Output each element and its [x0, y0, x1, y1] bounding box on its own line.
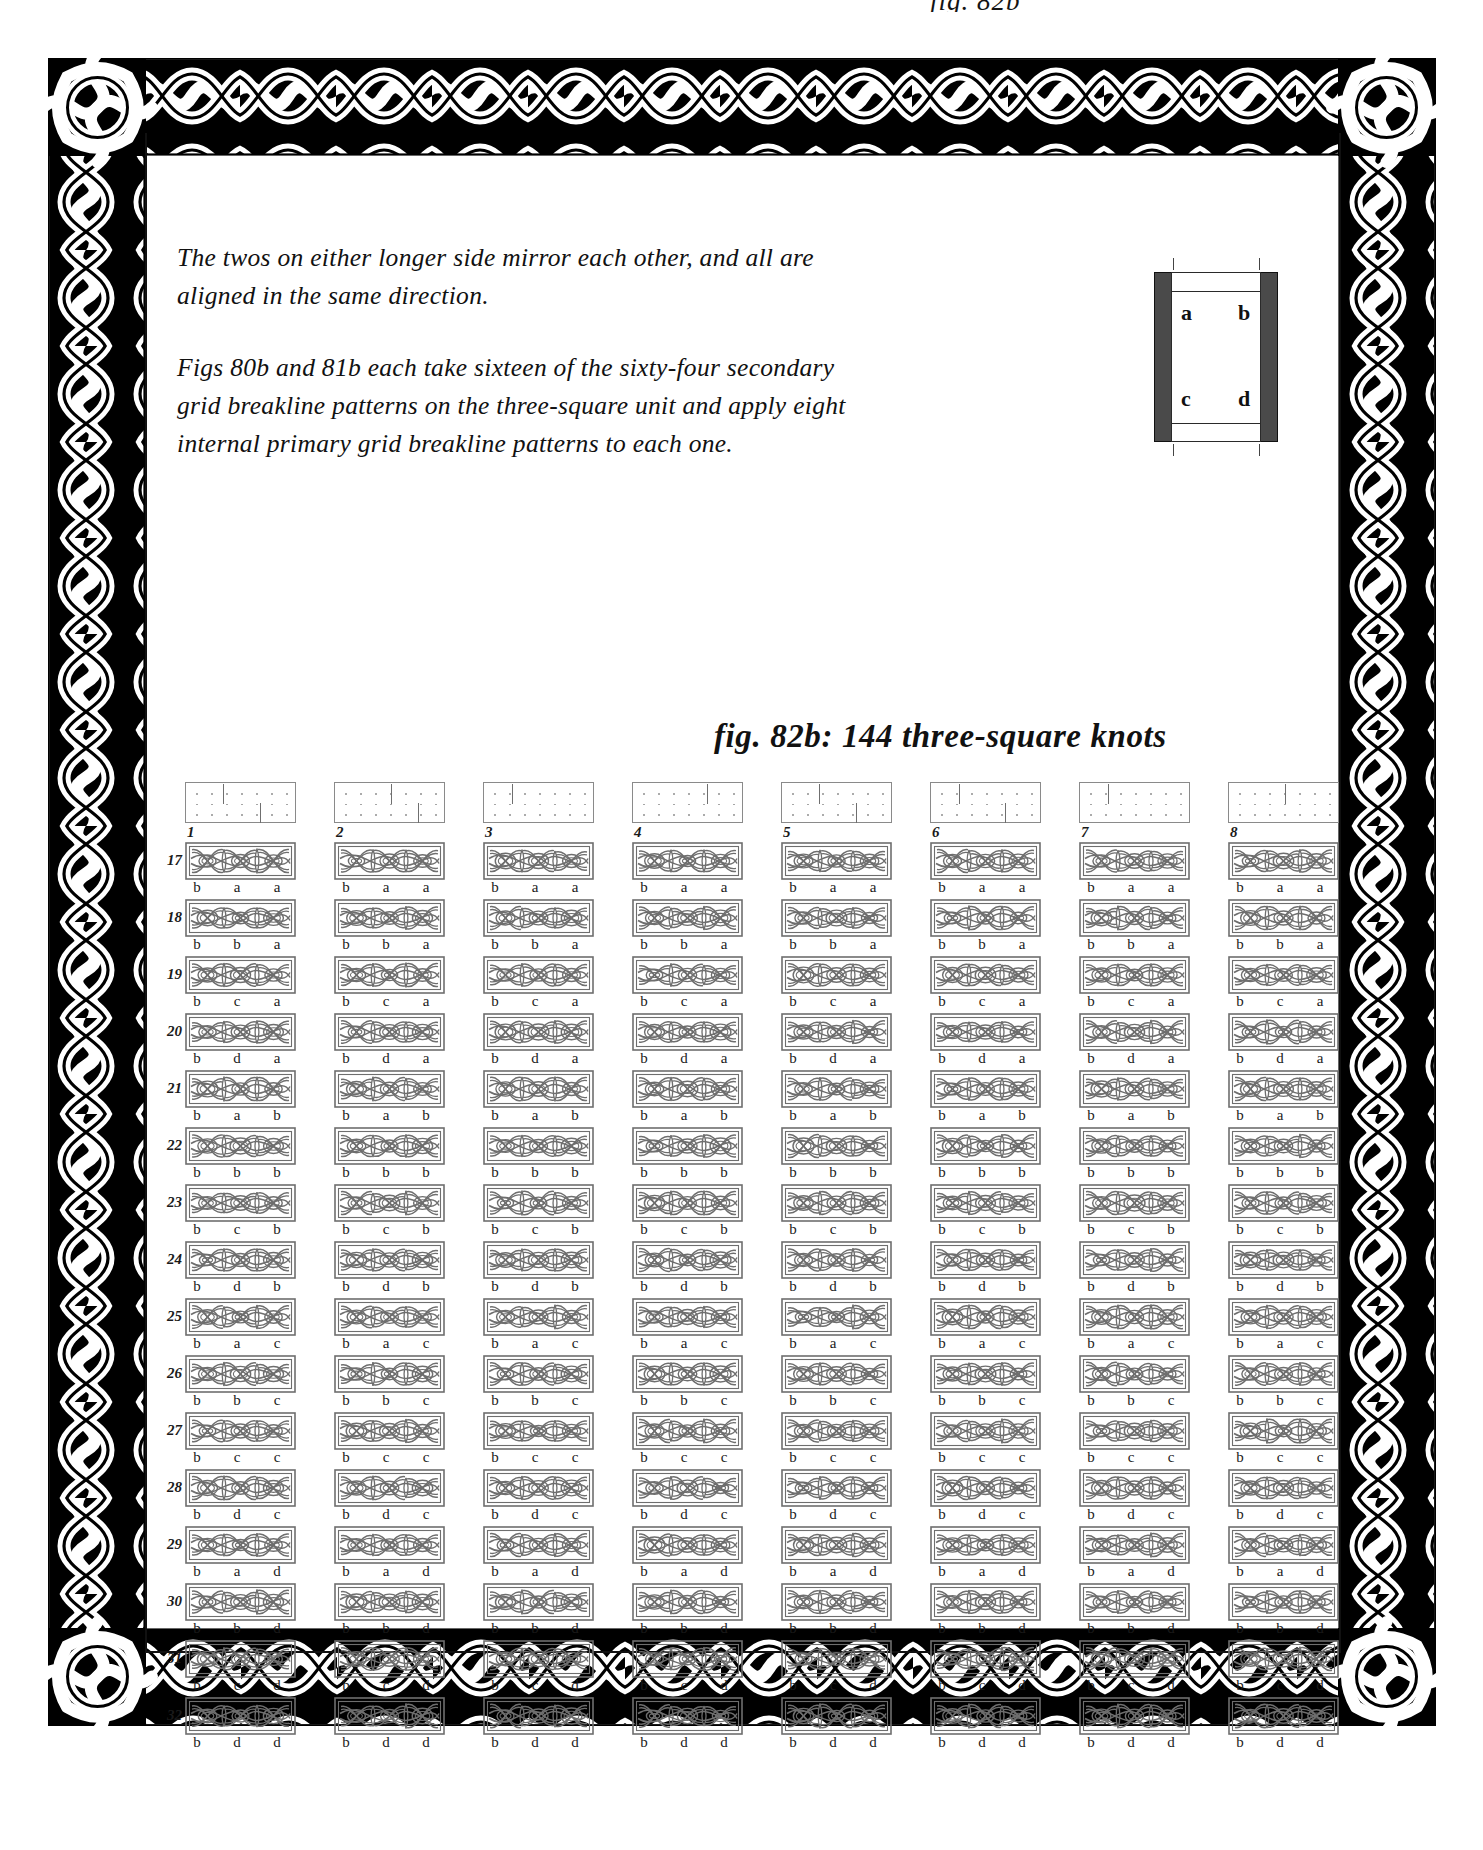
three-square-knot-icon: [1228, 1697, 1339, 1735]
knot-label: c: [376, 1221, 396, 1238]
three-square-knot-icon: [632, 956, 743, 994]
three-square-knot-icon: [1079, 899, 1190, 937]
key-hline-bottom: [1171, 423, 1261, 424]
knot-label: b: [972, 1164, 992, 1181]
dot-lattice: [782, 783, 891, 822]
knot-label: b: [1230, 1392, 1250, 1409]
knot-label: d: [1121, 1734, 1141, 1751]
knot-label: a: [416, 879, 436, 896]
three-square-knot-icon: [1079, 842, 1190, 880]
knot-label: d: [1270, 1734, 1290, 1751]
three-square-knot-icon: [781, 1013, 892, 1051]
knot-label: b: [565, 1107, 585, 1124]
breakline: [856, 803, 857, 823]
knot-cell-labels: baa: [483, 879, 594, 897]
three-square-knot-icon: [185, 1412, 296, 1450]
three-square-knot-icon: [632, 1355, 743, 1393]
knot-label: c: [863, 1506, 883, 1523]
knot-cell-labels: bdc: [1228, 1506, 1339, 1524]
knot-label: b: [932, 1620, 952, 1637]
knot-label: a: [1161, 1050, 1181, 1067]
knot-cell-labels: bab: [483, 1107, 594, 1125]
knot-label: b: [1230, 1677, 1250, 1694]
breakline: [819, 784, 820, 804]
row-number: 32: [160, 1707, 182, 1724]
three-square-knot-icon: [483, 956, 594, 994]
column-header-panel: [930, 782, 1041, 823]
knot-cell: bda: [930, 1013, 1041, 1068]
knot-label: b: [783, 879, 803, 896]
paragraph-2: Figs 80b and 81b each take sixteen of th…: [177, 349, 877, 463]
knot-label: b: [1310, 1278, 1330, 1295]
knot-cell: bdb: [334, 1241, 445, 1296]
knot-cell: bda: [1079, 1013, 1190, 1068]
knot-cell-labels: baa: [1079, 879, 1190, 897]
knot-label: b: [932, 1050, 952, 1067]
knot-label: b: [1081, 993, 1101, 1010]
three-square-knot-icon: [185, 899, 296, 937]
knot-label: b: [634, 1449, 654, 1466]
knot-cell: bad: [185, 1526, 296, 1581]
knot-label: b: [783, 1392, 803, 1409]
knot-cell: bbb: [632, 1127, 743, 1182]
knot-label: b: [227, 936, 247, 953]
knot-cell: bba: [334, 899, 445, 954]
knot-label: c: [1310, 1449, 1330, 1466]
three-square-knot-icon: [1228, 1355, 1339, 1393]
figure-caption: fig. 82b: 144 three-square knots: [714, 718, 1167, 755]
column-number: 2: [336, 824, 344, 841]
knot-label: a: [674, 1335, 694, 1352]
three-square-knot-icon: [185, 1526, 296, 1564]
knot-label: b: [783, 1050, 803, 1067]
knot-label: b: [1230, 1620, 1250, 1637]
row-number: 21: [160, 1080, 182, 1097]
knot-label: a: [565, 936, 585, 953]
three-square-knot-icon: [1228, 1298, 1339, 1336]
three-square-knot-icon: [483, 1013, 594, 1051]
three-square-knot-icon: [334, 956, 445, 994]
knot-cell-labels: bcb: [185, 1221, 296, 1239]
knot-cell-labels: bbc: [781, 1392, 892, 1410]
knot-cell: bdc: [334, 1469, 445, 1524]
three-square-knot-icon: [483, 899, 594, 937]
knot-cell: bda: [483, 1013, 594, 1068]
knot-label: b: [1081, 1050, 1101, 1067]
knot-cell: bcd: [781, 1640, 892, 1695]
knot-cell-labels: bda: [483, 1050, 594, 1068]
knot-label: b: [187, 1335, 207, 1352]
knot-label: c: [972, 1449, 992, 1466]
knot-cell: baa: [483, 842, 594, 897]
dot-lattice: [335, 783, 444, 822]
three-square-knot-icon: [781, 1127, 892, 1165]
knot-label: b: [634, 936, 654, 953]
knot-cell: bac: [1079, 1298, 1190, 1353]
knot-label: b: [634, 1164, 654, 1181]
knot-label: a: [227, 1335, 247, 1352]
knot-grid-row: 30bbdbbdbbdbbdbbdbbdbbdbbd: [160, 1583, 1335, 1640]
knot-label: b: [525, 1392, 545, 1409]
knot-label: b: [1270, 1620, 1290, 1637]
three-square-knot-icon: [185, 1184, 296, 1222]
knot-label: b: [485, 1677, 505, 1694]
knot-cell: bcc: [334, 1412, 445, 1467]
knot-cell-labels: bda: [632, 1050, 743, 1068]
three-square-knot-icon: [1079, 1697, 1190, 1735]
knot-cell-labels: bdc: [781, 1506, 892, 1524]
knot-cell-labels: bbc: [1228, 1392, 1339, 1410]
knot-cell: bcc: [632, 1412, 743, 1467]
three-square-knot-icon: [930, 1184, 1041, 1222]
knot-label: b: [227, 1164, 247, 1181]
three-square-knot-icon: [1079, 1526, 1190, 1564]
knot-label: b: [972, 1392, 992, 1409]
column-number: 1: [187, 824, 195, 841]
knot-label: d: [863, 1620, 883, 1637]
breakline: [1005, 803, 1006, 823]
three-square-knot-icon: [1228, 1070, 1339, 1108]
dot-lattice: [1229, 783, 1338, 822]
knot-cell-labels: bca: [185, 993, 296, 1011]
knot-label: a: [227, 1107, 247, 1124]
knot-cell: baa: [185, 842, 296, 897]
knot-label: b: [336, 1620, 356, 1637]
knot-cell-labels: bcd: [930, 1677, 1041, 1695]
knot-label: a: [416, 936, 436, 953]
